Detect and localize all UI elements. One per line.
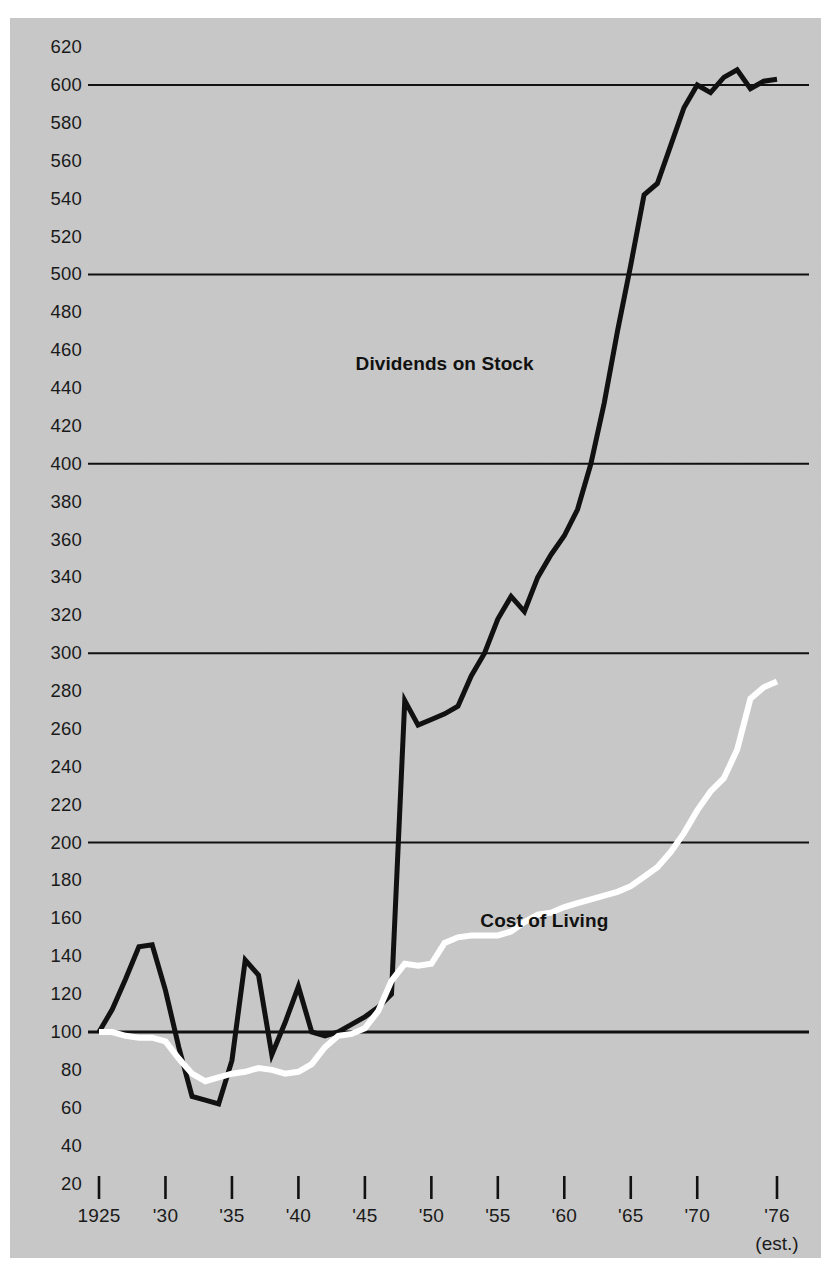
y-axis-tick-label: 200 bbox=[20, 832, 82, 854]
x-axis-tick-label: '70 bbox=[652, 1205, 742, 1227]
y-axis-tick-label: 560 bbox=[20, 150, 82, 172]
y-axis-tick-label: 340 bbox=[20, 566, 82, 588]
y-axis-tick-label: 540 bbox=[20, 188, 82, 210]
series-annotation-label: Cost of Living bbox=[480, 910, 608, 932]
y-axis-tick-label: 520 bbox=[20, 226, 82, 248]
x-axis-tick-label: '76 bbox=[732, 1205, 822, 1227]
series-annotation-label: Dividends on Stock bbox=[356, 353, 534, 375]
y-axis-tick-label: 400 bbox=[20, 453, 82, 475]
y-axis-tick-label: 300 bbox=[20, 642, 82, 664]
y-axis-tick-label: 380 bbox=[20, 491, 82, 513]
y-axis-tick-label: 20 bbox=[20, 1173, 82, 1195]
chart-svg bbox=[0, 0, 831, 1283]
y-axis-tick-label: 120 bbox=[20, 983, 82, 1005]
y-axis-tick-label: 420 bbox=[20, 415, 82, 437]
y-axis-tick-label: 460 bbox=[20, 339, 82, 361]
y-axis-tick-label: 80 bbox=[20, 1059, 82, 1081]
chart-root: 6206005805605405205004804604404204003803… bbox=[0, 0, 831, 1283]
y-axis-tick-label: 180 bbox=[20, 869, 82, 891]
y-axis-tick-label: 500 bbox=[20, 263, 82, 285]
y-axis-tick-label: 480 bbox=[20, 301, 82, 323]
y-axis-tick-label: 60 bbox=[20, 1097, 82, 1119]
y-axis-tick-label: 600 bbox=[20, 74, 82, 96]
y-axis-tick-label: 320 bbox=[20, 604, 82, 626]
series-line-cost-of-living bbox=[99, 682, 777, 1082]
y-axis-tick-label: 240 bbox=[20, 756, 82, 778]
y-axis-tick-label: 100 bbox=[20, 1021, 82, 1043]
gridlines-group bbox=[88, 85, 809, 1032]
y-axis-tick-label: 260 bbox=[20, 718, 82, 740]
series-group bbox=[99, 70, 777, 1104]
y-axis-tick-label: 360 bbox=[20, 529, 82, 551]
y-axis-tick-label: 40 bbox=[20, 1135, 82, 1157]
x-axis-tick-sublabel: (est.) bbox=[732, 1233, 822, 1255]
x-axis-ticks-group bbox=[99, 1176, 777, 1199]
y-axis-tick-label: 620 bbox=[20, 36, 82, 58]
y-axis-tick-label: 280 bbox=[20, 680, 82, 702]
y-axis-tick-label: 440 bbox=[20, 377, 82, 399]
y-axis-tick-label: 220 bbox=[20, 794, 82, 816]
y-axis-tick-label: 140 bbox=[20, 945, 82, 967]
y-axis-tick-label: 580 bbox=[20, 112, 82, 134]
y-axis-tick-label: 160 bbox=[20, 907, 82, 929]
